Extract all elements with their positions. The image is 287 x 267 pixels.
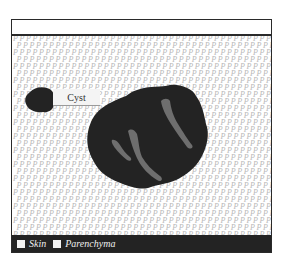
cyst-shape [25, 87, 55, 112]
mass-shape [87, 85, 208, 189]
diagram-shapes [0, 0, 287, 267]
cyst-label: Cyst [53, 89, 100, 106]
